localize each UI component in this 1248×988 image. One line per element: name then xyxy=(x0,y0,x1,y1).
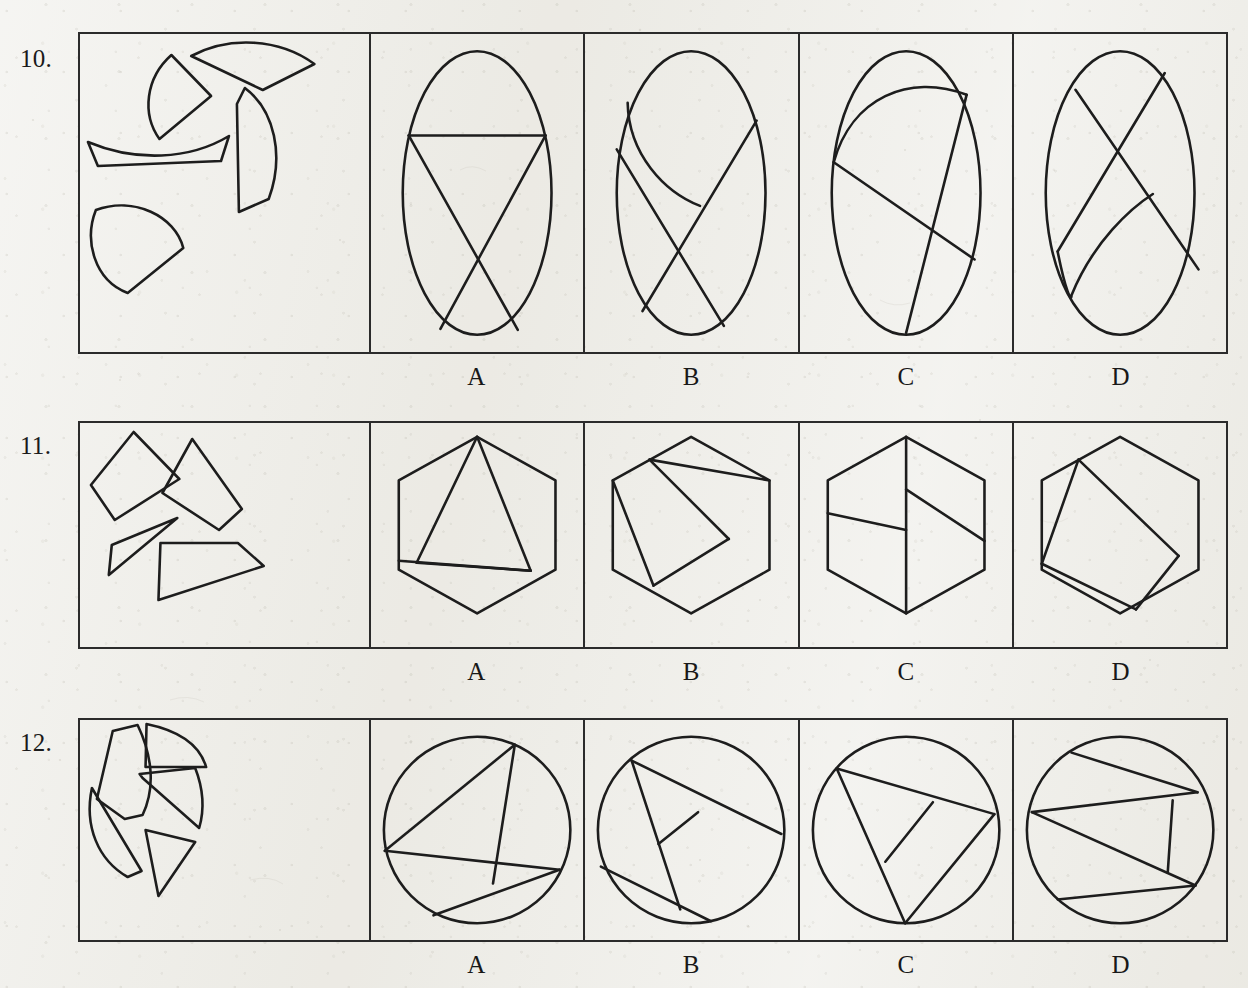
option-cell-12-B[interactable] xyxy=(585,720,799,940)
option-label-11-B: B xyxy=(584,659,799,684)
option-label-12-D: D xyxy=(1013,952,1228,977)
option-label-12-B: B xyxy=(584,952,799,977)
prompt-pieces-11 xyxy=(80,423,369,647)
option-labels-10: A B C D xyxy=(369,364,1228,389)
option-label-10-B: B xyxy=(584,364,799,389)
question-row-10: 10. xyxy=(78,32,1228,412)
option-figure-11-B xyxy=(585,423,797,647)
option-label-12-C: C xyxy=(799,952,1014,977)
prompt-pieces-12 xyxy=(80,720,369,940)
option-label-10-C: C xyxy=(799,364,1014,389)
question-number-11: 11. xyxy=(20,433,51,458)
option-label-12-A: A xyxy=(369,952,584,977)
prompt-cell-10 xyxy=(80,34,371,352)
option-cell-12-D[interactable] xyxy=(1014,720,1226,940)
option-cell-12-C[interactable] xyxy=(800,720,1014,940)
option-figure-12-A xyxy=(371,720,583,940)
prompt-pieces-10 xyxy=(80,34,369,352)
question-row-12: 12. xyxy=(78,718,1228,988)
option-figure-11-A xyxy=(371,423,583,647)
option-label-11-A: A xyxy=(369,659,584,684)
option-cell-10-D[interactable] xyxy=(1014,34,1226,352)
worksheet-sheet: 10. xyxy=(0,0,1248,988)
option-cell-10-A[interactable] xyxy=(371,34,585,352)
option-cell-11-C[interactable] xyxy=(800,423,1014,647)
option-figure-12-D xyxy=(1014,720,1226,940)
answer-grid-10 xyxy=(78,32,1228,354)
prompt-cell-12 xyxy=(80,720,371,940)
option-label-11-C: C xyxy=(799,659,1014,684)
option-label-10-A: A xyxy=(369,364,584,389)
option-cell-12-A[interactable] xyxy=(371,720,585,940)
question-number-10: 10. xyxy=(20,46,52,71)
option-cell-11-D[interactable] xyxy=(1014,423,1226,647)
question-number-12: 12. xyxy=(20,730,52,755)
prompt-cell-11 xyxy=(80,423,371,647)
option-figure-11-D xyxy=(1014,423,1226,647)
option-label-10-D: D xyxy=(1013,364,1228,389)
question-row-11: 11. xyxy=(78,421,1228,701)
answer-grid-11 xyxy=(78,421,1228,649)
option-figure-10-A xyxy=(371,34,583,352)
option-cell-11-B[interactable] xyxy=(585,423,799,647)
option-figure-10-C xyxy=(800,34,1012,352)
option-figure-10-D xyxy=(1014,34,1226,352)
option-figure-11-C xyxy=(800,423,1012,647)
option-labels-11: A B C D xyxy=(369,659,1228,684)
option-cell-10-B[interactable] xyxy=(585,34,799,352)
option-figure-12-B xyxy=(585,720,797,940)
option-figure-12-C xyxy=(800,720,1012,940)
option-cell-11-A[interactable] xyxy=(371,423,585,647)
answer-grid-12 xyxy=(78,718,1228,942)
option-labels-12: A B C D xyxy=(369,952,1228,977)
option-label-11-D: D xyxy=(1013,659,1228,684)
option-figure-10-B xyxy=(585,34,797,352)
option-cell-10-C[interactable] xyxy=(800,34,1014,352)
